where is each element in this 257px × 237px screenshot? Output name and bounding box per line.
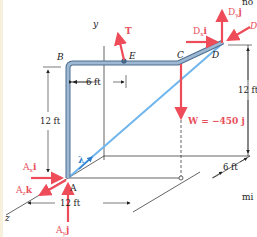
az-unit: k	[26, 185, 33, 195]
force-w-label: W = −450 j	[187, 116, 245, 126]
dim-depth-line-l	[212, 172, 222, 178]
dim-d-height-label: 12 ft	[238, 85, 257, 95]
point-e-label: E	[128, 51, 136, 61]
dim-depth-line-r	[240, 158, 247, 162]
dim-depth-label: 6 ft	[223, 162, 238, 172]
dim-ab-label: 12 ft	[40, 116, 61, 126]
force-dx-label: Dxi	[193, 26, 208, 37]
clipped-text-top: no	[242, 0, 253, 7]
dim-width-label: 12 ft	[60, 198, 81, 208]
force-az-label: Azk	[15, 185, 33, 196]
dy-symbol: D	[228, 7, 235, 17]
figure-page: B E C D A y z T Dxi Dyj D Axi Azk Ayj W …	[0, 0, 257, 237]
frame-lines	[6, 45, 250, 215]
ay-unit: j	[65, 225, 69, 235]
rigid-body-diagram: B E C D A y z T Dxi Dyj D Axi Azk Ayj W …	[0, 0, 257, 237]
point-a-label: A	[69, 183, 77, 193]
unit-vector-label: λ	[78, 155, 84, 165]
force-dz-label: D	[249, 21, 257, 31]
dim-be-arrowhead	[72, 80, 77, 84]
force-az-arrow	[40, 180, 66, 195]
clipped-text-right: mi	[242, 192, 254, 202]
y-axis-label: y	[92, 19, 99, 29]
dx-unit: i	[204, 26, 208, 36]
force-dy-label: Dyj	[228, 7, 242, 19]
ax-unit: i	[33, 162, 37, 172]
force-ax-label: Axi	[22, 162, 37, 173]
force-t-label: T	[125, 26, 132, 36]
left-depth-line	[68, 156, 104, 178]
point-b-label: B	[56, 52, 64, 62]
dim-be-label: 6 ft	[86, 77, 101, 87]
force-ay-label: Ayj	[55, 225, 69, 237]
point-c-label: C	[177, 50, 184, 60]
point-d-label: D	[211, 50, 219, 60]
force-dz-arrow	[228, 27, 250, 40]
dx-symbol: D	[193, 26, 200, 36]
dy-unit: j	[238, 7, 242, 17]
w-ground-point	[179, 176, 183, 180]
force-t-arrow	[118, 34, 124, 60]
z-axis-label: z	[4, 213, 10, 223]
